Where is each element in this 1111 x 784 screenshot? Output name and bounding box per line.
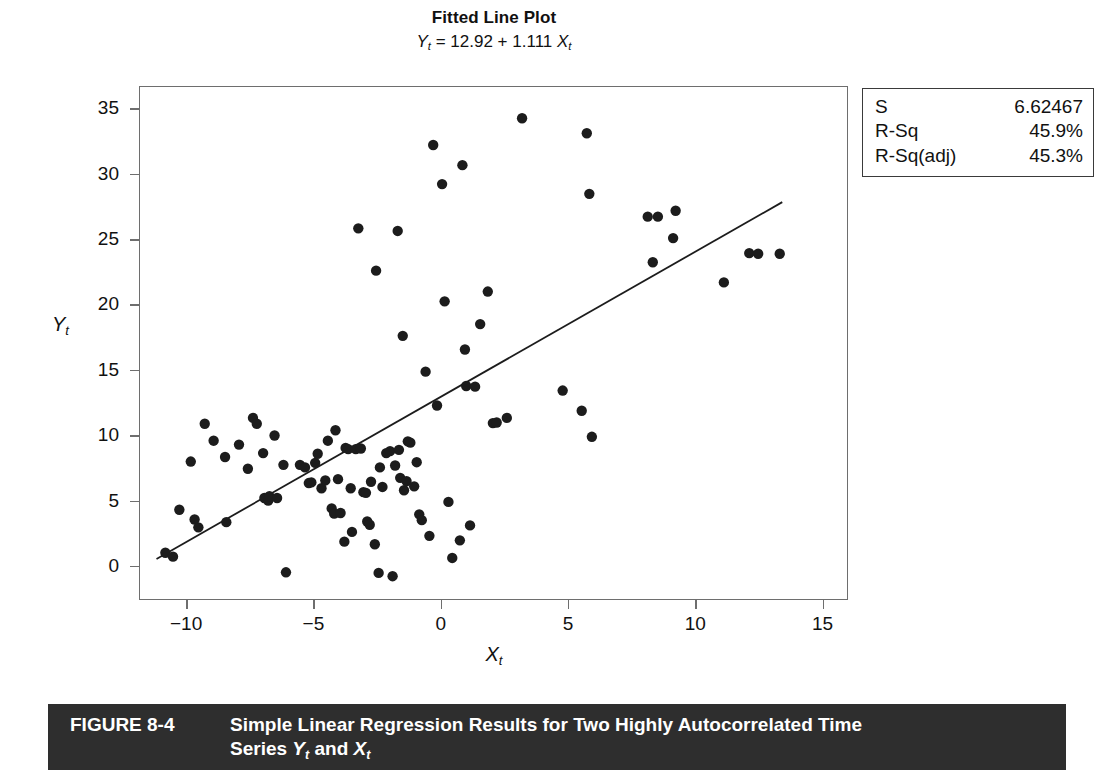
y-axis-tick-mark xyxy=(130,239,139,241)
caption-x-subscript: t xyxy=(366,748,370,762)
y-axis-tick-mark xyxy=(130,304,139,306)
scatter-point xyxy=(394,445,404,455)
scatter-point xyxy=(377,482,387,492)
scatter-point xyxy=(385,446,395,456)
equation-y-var: Y xyxy=(417,32,428,51)
scatter-point xyxy=(424,531,434,541)
fitted-regression-line xyxy=(157,202,783,559)
statistic-label: R-Sq(adj) xyxy=(875,144,956,168)
x-axis-tick-mark xyxy=(695,600,697,609)
figure-caption-bar: FIGURE 8-4 Simple Linear Regression Resu… xyxy=(48,704,1066,770)
caption-y-subscript: t xyxy=(305,748,309,762)
scatter-point xyxy=(320,475,330,485)
y-axis-tick-label: 15 xyxy=(79,359,119,381)
y-axis-tick-label: 20 xyxy=(79,293,119,315)
scatter-point xyxy=(356,443,366,453)
scatter-point xyxy=(272,493,282,503)
scatter-point xyxy=(502,413,512,423)
caption-y-var: Y xyxy=(292,738,305,759)
y-axis-tick-label: 25 xyxy=(79,228,119,250)
scatter-point xyxy=(455,535,465,545)
scatter-point xyxy=(670,206,680,216)
scatter-plot-canvas xyxy=(140,87,847,599)
scatter-point xyxy=(339,536,349,546)
y-axis-tick-mark xyxy=(130,370,139,372)
scatter-point xyxy=(775,249,785,259)
y-axis-tick-mark xyxy=(130,435,139,437)
scatter-point xyxy=(753,249,763,259)
y-axis-tick-mark xyxy=(130,501,139,503)
statistics-box: S6.62467R-Sq45.9%R-Sq(adj)45.3% xyxy=(862,88,1094,177)
x-axis-tick-label: −5 xyxy=(283,613,343,635)
scatter-point xyxy=(390,460,400,470)
y-axis-title: Yt xyxy=(52,313,69,336)
caption-x-var: X xyxy=(354,738,367,759)
scatter-point xyxy=(269,430,279,440)
scatter-point xyxy=(361,488,371,498)
caption-conjunction: and xyxy=(309,738,353,759)
y-axis-title-subscript: t xyxy=(65,322,69,337)
y-axis-tick-mark xyxy=(130,174,139,176)
scatter-point xyxy=(744,248,754,258)
scatter-point xyxy=(439,296,449,306)
scatter-point xyxy=(417,515,427,525)
scatter-point xyxy=(208,436,218,446)
x-axis-title-var: X xyxy=(485,643,498,665)
equation-body: = 12.92 + 1.111 xyxy=(431,32,557,51)
equation-y-subscript: t xyxy=(428,40,431,52)
scatter-point xyxy=(582,128,592,138)
scatter-point xyxy=(168,551,178,561)
scatter-point xyxy=(577,406,587,416)
y-axis-tick-label: 30 xyxy=(79,163,119,185)
chart-equation-subtitle: Yt = 12.92 + 1.111 Xt xyxy=(139,32,849,52)
scatter-point xyxy=(447,553,457,563)
scatter-point xyxy=(278,460,288,470)
scatter-point xyxy=(719,277,729,287)
scatter-point xyxy=(643,211,653,221)
scatter-point xyxy=(234,439,244,449)
x-axis-tick-label: 10 xyxy=(665,613,725,635)
scatter-point xyxy=(465,520,475,530)
y-axis-title-var: Y xyxy=(52,313,65,335)
scatter-point xyxy=(346,483,356,493)
y-axis-tick-mark xyxy=(130,566,139,568)
scatter-point xyxy=(398,331,408,341)
statistic-value: 45.9% xyxy=(1029,119,1083,143)
scatter-point xyxy=(366,477,376,487)
scatter-point xyxy=(200,419,210,429)
caption-line-1: Simple Linear Regression Results for Two… xyxy=(230,714,862,735)
scatter-point xyxy=(517,113,527,123)
y-axis-tick-label: 5 xyxy=(79,490,119,512)
scatter-point xyxy=(300,462,310,472)
x-axis-tick-mark xyxy=(186,600,188,609)
scatter-point xyxy=(428,140,438,150)
x-axis-title-subscript: t xyxy=(499,653,503,668)
caption-line-2-prefix: Series xyxy=(230,738,292,759)
scatter-point xyxy=(310,458,320,468)
y-axis-tick-label: 35 xyxy=(79,97,119,119)
scatter-point xyxy=(491,417,501,427)
scatter-point xyxy=(258,448,268,458)
scatter-point xyxy=(174,505,184,515)
scatter-point xyxy=(409,481,419,491)
equation-x-subscript: t xyxy=(568,40,571,52)
x-axis-tick-mark xyxy=(823,600,825,609)
scatter-point xyxy=(186,456,196,466)
scatter-point xyxy=(399,485,409,495)
scatter-point xyxy=(371,266,381,276)
scatter-point xyxy=(457,160,467,170)
scatter-point xyxy=(437,179,447,189)
x-axis-tick-label: −10 xyxy=(156,613,216,635)
scatter-point xyxy=(353,223,363,233)
scatter-point xyxy=(370,539,380,549)
scatter-point xyxy=(461,381,471,391)
x-axis-tick-label: 15 xyxy=(793,613,853,635)
scatter-point xyxy=(475,319,485,329)
x-axis-tick-mark xyxy=(313,600,315,609)
scatter-point xyxy=(375,462,385,472)
statistic-label: S xyxy=(875,95,888,119)
scatter-point xyxy=(483,286,493,296)
scatter-point xyxy=(330,425,340,435)
scatter-point xyxy=(335,508,345,518)
figure-caption-text: Simple Linear Regression Results for Two… xyxy=(230,713,862,762)
